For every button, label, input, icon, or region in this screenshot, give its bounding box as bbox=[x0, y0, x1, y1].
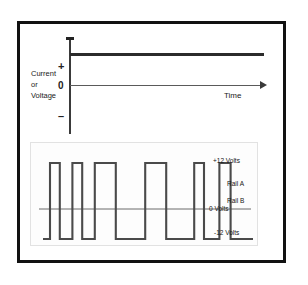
lower-pwm-plot: +12 Volts Rail A Rail B 0 Volts -12 Volt… bbox=[30, 142, 258, 246]
vertical-axis-top-cap bbox=[66, 37, 74, 40]
y-axis-label: Current or Voltage bbox=[31, 69, 71, 102]
label-rail-b: Rail B bbox=[227, 197, 244, 204]
label-zero-volts: 0 Volts bbox=[209, 205, 229, 212]
time-axis-arrow-icon bbox=[260, 81, 267, 89]
label-minus-12-volts: -12 Volts bbox=[214, 229, 239, 236]
upper-dc-plot: + 0 – Current or Voltage Time bbox=[17, 21, 286, 131]
dc-signal-line bbox=[70, 53, 264, 56]
label-rail-a: Rail A bbox=[227, 180, 244, 187]
y-axis-label-line-1: Current bbox=[31, 69, 71, 80]
time-axis-line bbox=[70, 85, 261, 86]
tick-label-negative: – bbox=[58, 111, 64, 122]
y-axis-label-line-2: or bbox=[31, 80, 71, 91]
y-axis-label-line-3: Voltage bbox=[31, 91, 71, 102]
x-axis-label: Time bbox=[224, 91, 241, 100]
pwm-square-wave-trace bbox=[43, 163, 253, 239]
label-plus-12-volts: +12 Volts bbox=[213, 157, 240, 164]
diagram-canvas: + 0 – Current or Voltage Time +12 Volts … bbox=[0, 0, 308, 285]
